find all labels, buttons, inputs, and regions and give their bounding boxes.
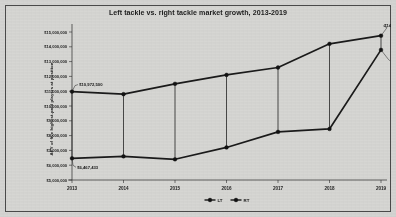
x-axis-tick-label: 2019 bbox=[376, 186, 387, 191]
data-point-rt-2016 bbox=[225, 146, 229, 150]
data-label-lt-2013: $10,972,500 bbox=[79, 82, 103, 87]
legend-marker-lt bbox=[208, 198, 212, 202]
x-axis-tick-label: 2014 bbox=[118, 186, 129, 191]
x-axis-tick-label: 2018 bbox=[324, 186, 335, 191]
legend-label-rt: RT bbox=[244, 198, 250, 203]
y-axis-tick-label: $10,000,000 bbox=[44, 104, 67, 109]
y-axis-tick-label: $12,000,000 bbox=[44, 74, 67, 79]
x-axis-tick-label: 2013 bbox=[67, 186, 78, 191]
y-axis-tick-label: $14,000,000 bbox=[44, 44, 67, 49]
chart-figure: Left tackle vs. right tackle market grow… bbox=[0, 0, 396, 217]
data-point-lt-2017 bbox=[276, 66, 280, 70]
chart-legend: LTRT bbox=[205, 198, 250, 203]
vertical-connector-group bbox=[72, 36, 381, 160]
data-label-rt-2013: $6,467,433 bbox=[77, 165, 99, 170]
chart-plot-area: $5,000,000$6,000,000$7,000,000$8,000,000… bbox=[5, 5, 391, 212]
x-axis-tick-label: 2015 bbox=[170, 186, 181, 191]
legend-label-lt: LT bbox=[218, 198, 223, 203]
data-point-lt-2019 bbox=[379, 34, 383, 38]
data-point-lt-2014 bbox=[122, 92, 126, 96]
y-axis-tick-label: $7,000,000 bbox=[47, 148, 68, 153]
x-axis-tick-label: 2017 bbox=[273, 186, 284, 191]
y-axis-tick-group: $5,000,000$6,000,000$7,000,000$8,000,000… bbox=[44, 30, 72, 183]
legend-marker-rt bbox=[234, 198, 238, 202]
data-point-rt-2014 bbox=[122, 154, 126, 158]
y-axis-tick-label: $13,000,000 bbox=[44, 59, 67, 64]
x-axis-tick-group: 2013201420152016201720182019 bbox=[67, 180, 387, 191]
y-axis-tick-label: $8,000,000 bbox=[47, 133, 68, 138]
data-label-leader bbox=[381, 50, 390, 61]
y-axis-tick-label: $6,000,000 bbox=[47, 163, 68, 168]
x-axis-tick-label: 2016 bbox=[221, 186, 232, 191]
data-point-lt-2015 bbox=[173, 82, 177, 86]
y-axis-tick-label: $15,000,000 bbox=[44, 30, 67, 35]
y-axis-tick-label: $9,000,000 bbox=[47, 118, 68, 123]
data-point-rt-2015 bbox=[173, 157, 177, 161]
data-point-lt-2016 bbox=[225, 73, 229, 77]
y-axis-tick-label: $11,000,000 bbox=[44, 89, 67, 94]
data-point-rt-2017 bbox=[276, 130, 280, 134]
data-point-rt-2018 bbox=[328, 127, 332, 131]
data-label-group: $10,972,500$14,750,000$6,467,433$13,791,… bbox=[72, 23, 391, 170]
data-label-lt-2019: $14,750,000 bbox=[384, 23, 391, 28]
y-axis-tick-label: $5,000,000 bbox=[47, 178, 68, 183]
data-point-lt-2018 bbox=[328, 42, 332, 46]
